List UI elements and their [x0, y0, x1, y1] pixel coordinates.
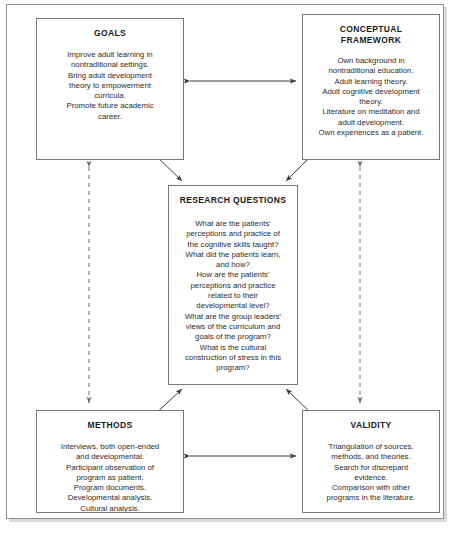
- node-methods-title: METHODS: [44, 420, 176, 431]
- node-goals[interactable]: GOALS Improve adult learning in nontradi…: [36, 18, 184, 160]
- node-conceptual-framework-title: CONCEPTUAL FRAMEWORK: [310, 24, 432, 46]
- diagram-canvas: GOALS Improve adult learning in nontradi…: [0, 0, 458, 533]
- node-goals-body: Improve adult learning in nontraditional…: [44, 50, 176, 122]
- node-goals-title: GOALS: [44, 28, 176, 39]
- node-conceptual-framework-body: Own background in nontraditional educati…: [310, 56, 432, 138]
- node-methods[interactable]: METHODS Interviews, both open-ended and …: [36, 410, 184, 513]
- node-research-questions-body: What are the patients' perceptions and p…: [176, 219, 290, 373]
- node-validity[interactable]: VALIDITY Triangulation of sources, metho…: [302, 410, 440, 513]
- node-validity-body: Triangulation of sources, methods, and t…: [310, 442, 432, 504]
- node-research-questions[interactable]: RESEARCH QUESTIONS What are the patients…: [168, 185, 298, 385]
- node-methods-body: Interviews, both open-ended and developm…: [44, 442, 176, 513]
- node-conceptual-framework[interactable]: CONCEPTUAL FRAMEWORK Own background in n…: [302, 14, 440, 160]
- node-validity-title: VALIDITY: [310, 420, 432, 431]
- node-research-questions-title: RESEARCH QUESTIONS: [176, 195, 290, 206]
